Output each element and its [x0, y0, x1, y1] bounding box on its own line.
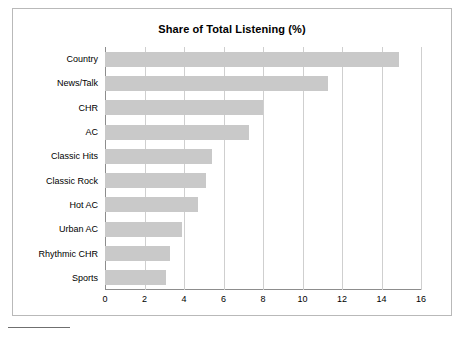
- category-label: Classic Rock: [46, 176, 105, 186]
- category-label: Classic Hits: [51, 151, 105, 161]
- chart-frame: Share of Total Listening (%) 02468101214…: [12, 8, 452, 316]
- x-tick-label: 8: [260, 294, 265, 304]
- bar: [105, 246, 170, 261]
- category-label: News/Talk: [57, 78, 105, 88]
- bar: [105, 173, 206, 188]
- chart-title: Share of Total Listening (%): [13, 23, 451, 35]
- x-tick-label: 14: [376, 294, 386, 304]
- gridline: [382, 47, 383, 290]
- x-tick-label: 10: [297, 294, 307, 304]
- category-label: Country: [66, 54, 105, 64]
- category-label: CHR: [79, 103, 106, 113]
- category-label: AC: [85, 127, 105, 137]
- x-tick-label: 4: [181, 294, 186, 304]
- gridline: [342, 47, 343, 290]
- x-tick-label: 12: [337, 294, 347, 304]
- plot-area: 0246810121416 CountryNews/TalkCHRACClass…: [105, 47, 421, 290]
- category-label: Urban AC: [59, 224, 105, 234]
- bar: [105, 52, 399, 67]
- x-tick-label: 0: [102, 294, 107, 304]
- category-label: Rhythmic CHR: [38, 249, 105, 259]
- x-tick-label: 16: [416, 294, 426, 304]
- bar: [105, 222, 182, 237]
- bar: [105, 125, 249, 140]
- bar: [105, 270, 166, 285]
- bar: [105, 100, 263, 115]
- bar: [105, 197, 198, 212]
- x-tick-label: 2: [142, 294, 147, 304]
- category-label: Sports: [72, 273, 105, 283]
- bar: [105, 149, 212, 164]
- footer-rule: [8, 327, 70, 328]
- x-tick-label: 6: [221, 294, 226, 304]
- category-label: Hot AC: [69, 200, 105, 210]
- gridline: [421, 47, 422, 290]
- bar: [105, 76, 328, 91]
